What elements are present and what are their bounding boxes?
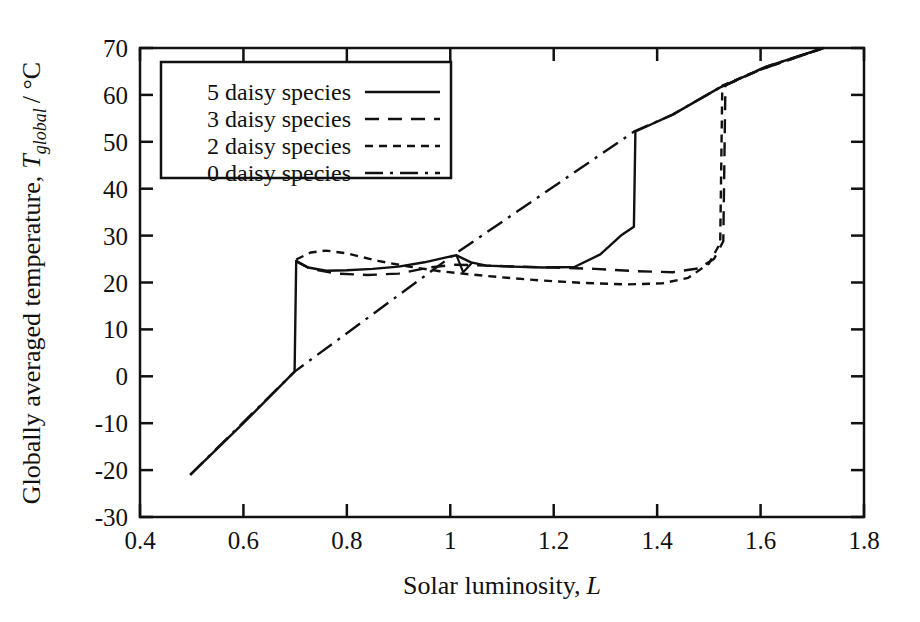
- y-tick-label: 50: [103, 129, 128, 156]
- y-tick-label: 60: [103, 82, 128, 109]
- y-tick-label: 20: [103, 270, 128, 297]
- y-tick-label: 40: [103, 176, 128, 203]
- y-tick-label: -30: [95, 504, 128, 531]
- y-tick-label: 10: [103, 316, 128, 343]
- y-tick-label: -10: [95, 410, 128, 437]
- y-axis-title: Globally averaged temperature,Tglobal/ °…: [17, 62, 50, 504]
- y-tick-label: 30: [103, 223, 128, 250]
- x-tick-label: 1.4: [642, 527, 674, 554]
- y-tick-label: 70: [103, 35, 128, 62]
- chart-figure: 0.40.60.811.21.41.61.8-30-20-10010203040…: [0, 0, 920, 622]
- x-tick-label: 0.6: [228, 527, 259, 554]
- x-tick-label: 1.8: [848, 527, 879, 554]
- x-tick-label: 0.8: [331, 527, 362, 554]
- y-tick-label: 0: [116, 363, 129, 390]
- legend: 5 daisy species3 daisy species2 daisy sp…: [161, 62, 451, 186]
- chart-svg: 0.40.60.811.21.41.61.8-30-20-10010203040…: [0, 0, 920, 622]
- legend-label-0: 5 daisy species: [207, 79, 351, 105]
- legend-label-3: 0 daisy species: [207, 160, 351, 186]
- y-tick-label: -20: [95, 457, 128, 484]
- legend-label-2: 2 daisy species: [207, 133, 351, 159]
- x-axis-title: Solar luminosity,L: [403, 571, 601, 600]
- x-tick-label: 1: [444, 527, 457, 554]
- x-tick-label: 1.6: [745, 527, 776, 554]
- x-tick-label: 0.4: [124, 527, 156, 554]
- legend-label-1: 3 daisy species: [207, 106, 351, 132]
- x-tick-label: 1.2: [538, 527, 569, 554]
